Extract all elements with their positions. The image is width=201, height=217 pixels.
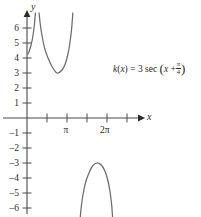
equation-plus: + (170, 64, 175, 74)
equation-fraction: π4 (176, 61, 180, 76)
y-tick-label-6: 6 (6, 24, 19, 34)
secant-curve-group (28, 13, 113, 217)
y-tick-label-4: 4 (6, 54, 19, 64)
equation-close-paren-outer: ) (125, 64, 128, 74)
y-axis-arrowhead (24, 10, 31, 17)
y-tick-label-neg4: –4 (3, 174, 19, 184)
equation-inner-variable: x (164, 64, 168, 74)
curve-branch-lower (80, 163, 113, 217)
x-tick-label-2pi: 2π (100, 126, 110, 136)
graph-figure: 6 5 4 3 2 1 –1 –2 –3 –4 –5 –6 π 2π y x k… (0, 0, 201, 217)
equation-close-paren: ) (181, 61, 185, 76)
axis-lines (3, 10, 145, 214)
y-tick-label-1: 1 (6, 99, 19, 109)
y-tick-label-3: 3 (6, 69, 19, 79)
equation-equals: = (130, 64, 135, 74)
y-tick-label-5: 5 (6, 39, 19, 49)
y-tick-label-neg6: –6 (3, 204, 19, 214)
curve-branch-upper (39, 13, 73, 73)
equation-trig-function: sec (145, 64, 157, 74)
function-plot (0, 0, 201, 217)
y-tick-label-2: 2 (6, 84, 19, 94)
y-tick-label-neg5: –5 (3, 189, 19, 199)
y-tick-label-neg3: –3 (3, 159, 19, 169)
x-axis-label: x (147, 112, 151, 122)
x-axis-arrowhead (138, 115, 145, 122)
y-axis-label: y (31, 2, 35, 12)
curve-branch-left-partial (28, 13, 36, 54)
y-tick-label-neg2: –2 (3, 144, 19, 154)
y-tick-label-neg1: –1 (3, 129, 19, 139)
equation-fraction-denominator: 4 (176, 69, 180, 76)
x-tick-label-pi: π (64, 126, 69, 136)
equation-amplitude: 3 (138, 64, 143, 74)
function-equation-label: k(x) = 3 sec (x +π4) (113, 61, 185, 76)
